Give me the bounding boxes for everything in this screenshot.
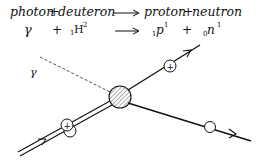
neutron-superscript: 1	[217, 21, 221, 29]
proton-charge-label: +	[167, 62, 175, 72]
photon-label: γ	[30, 66, 37, 79]
interaction-vertex-icon	[109, 86, 131, 108]
word-proton: proton	[144, 4, 186, 19]
word-deuteron: deuteron	[58, 4, 115, 19]
symbol-arrow-icon	[115, 28, 139, 34]
deuteron-track: +	[18, 101, 112, 156]
word-neutron: neutron	[192, 4, 242, 19]
symbol-plus-1: +	[52, 23, 62, 37]
proton-track: +	[128, 45, 200, 90]
deuteron-superscript: 2	[83, 21, 87, 29]
word-photon: photon	[10, 4, 54, 19]
photon-track: γ	[30, 57, 110, 92]
symbol-equation: γ + 1 H 2 1 p 1 + 0 n 1	[24, 21, 221, 38]
word-equation: photon + deuteron proton + neutron	[10, 4, 242, 19]
proton-superscript: 1	[164, 21, 168, 29]
word-arrow-icon	[113, 10, 139, 16]
proton-symbol: p	[156, 23, 164, 37]
photodisintegration-diagram: photon + deuteron proton + neutron γ + 1…	[0, 0, 257, 165]
deuteron-charge-label: +	[64, 121, 72, 131]
symbol-plus-2: +	[182, 23, 192, 37]
neutron-symbol: n	[207, 23, 215, 37]
neutron-icon	[205, 122, 216, 133]
symbol-gamma: γ	[24, 22, 32, 37]
neutron-track	[128, 103, 251, 141]
